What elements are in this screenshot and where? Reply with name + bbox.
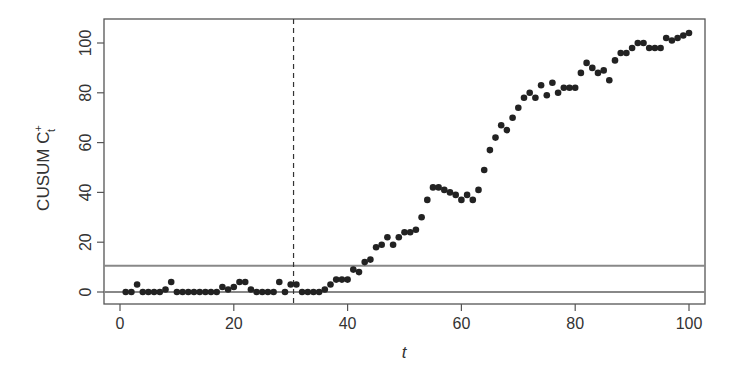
data-point — [606, 77, 613, 84]
data-point — [640, 40, 647, 47]
y-axis-title-main: CUSUM C — [34, 132, 53, 211]
data-point — [299, 289, 306, 296]
data-point — [549, 80, 556, 87]
data-point — [566, 85, 573, 92]
y-axis-title: CUSUM C+t — [32, 125, 57, 211]
data-point — [339, 276, 346, 283]
data-point — [248, 286, 255, 293]
data-point — [378, 241, 385, 248]
y-tick-label: 60 — [77, 134, 94, 152]
x-tick-label: 40 — [339, 315, 357, 332]
data-point — [287, 281, 294, 288]
data-point — [242, 279, 249, 286]
data-point — [612, 57, 619, 64]
data-point — [629, 45, 636, 52]
data-point — [635, 40, 642, 47]
data-point — [555, 90, 562, 97]
data-point — [293, 281, 300, 288]
data-point — [179, 289, 186, 296]
y-tick-label: 100 — [77, 30, 94, 57]
data-point — [384, 234, 391, 241]
data-point — [253, 289, 260, 296]
data-point — [122, 289, 129, 296]
data-point — [515, 104, 522, 111]
data-point — [600, 67, 607, 74]
data-point — [657, 45, 664, 52]
svg-text:CUSUM C+t: CUSUM C+t — [32, 125, 57, 211]
data-point — [231, 284, 238, 291]
x-tick-label: 20 — [225, 315, 243, 332]
data-point — [356, 269, 363, 276]
data-point — [236, 279, 243, 286]
data-point — [168, 279, 175, 286]
data-point — [418, 214, 425, 221]
data-point — [322, 286, 329, 293]
data-point — [680, 32, 687, 39]
data-point — [481, 167, 488, 174]
data-point — [282, 289, 289, 296]
data-point — [526, 90, 533, 97]
data-point — [361, 259, 368, 266]
data-point — [492, 134, 499, 141]
y-tick-label: 20 — [77, 233, 94, 251]
data-point — [521, 95, 528, 102]
x-tick-label: 100 — [676, 315, 703, 332]
data-point — [487, 147, 494, 154]
data-point — [344, 276, 351, 283]
data-point — [458, 197, 465, 204]
data-point — [208, 289, 215, 296]
cusum-chart: 020406080100 020406080100 t CUSUM C+t — [0, 0, 736, 389]
data-point — [686, 30, 693, 37]
data-point — [452, 192, 459, 199]
data-points — [122, 30, 692, 296]
data-point — [270, 289, 277, 296]
data-point — [128, 289, 135, 296]
x-tick-label: 60 — [453, 315, 471, 332]
data-point — [572, 85, 579, 92]
data-point — [674, 35, 681, 42]
data-point — [544, 92, 551, 99]
x-axis-title: t — [402, 343, 408, 362]
data-point — [498, 122, 505, 129]
data-point — [504, 127, 511, 134]
data-point — [367, 256, 374, 263]
data-point — [305, 289, 312, 296]
y-axis-title-sub: t — [45, 129, 57, 132]
data-point — [191, 289, 198, 296]
data-point — [350, 266, 357, 273]
y-tick-label: 80 — [77, 84, 94, 102]
data-point — [265, 289, 272, 296]
data-point — [151, 289, 158, 296]
data-point — [441, 187, 448, 194]
data-point — [538, 82, 545, 89]
data-point — [185, 289, 192, 296]
data-point — [157, 289, 164, 296]
y-axis-title-sup: + — [32, 125, 44, 131]
data-point — [134, 281, 141, 288]
data-point — [509, 114, 516, 121]
data-point — [561, 85, 568, 92]
data-point — [219, 284, 226, 291]
data-point — [424, 197, 431, 204]
data-point — [225, 286, 232, 293]
data-point — [578, 70, 585, 77]
data-point — [316, 289, 323, 296]
data-point — [390, 241, 397, 248]
data-point — [464, 192, 471, 199]
data-point — [196, 289, 203, 296]
data-point — [333, 276, 340, 283]
data-point — [413, 227, 420, 234]
data-point — [162, 286, 169, 293]
x-axis: 020406080100 — [116, 304, 703, 332]
data-point — [669, 37, 676, 44]
data-point — [407, 229, 414, 236]
data-point — [646, 45, 653, 52]
y-axis: 020406080100 — [77, 30, 104, 297]
data-point — [617, 50, 624, 57]
data-point — [623, 50, 630, 57]
data-point — [663, 35, 670, 42]
data-point — [595, 70, 602, 77]
y-tick-label: 40 — [77, 183, 94, 201]
data-point — [589, 65, 596, 72]
data-point — [652, 45, 659, 52]
